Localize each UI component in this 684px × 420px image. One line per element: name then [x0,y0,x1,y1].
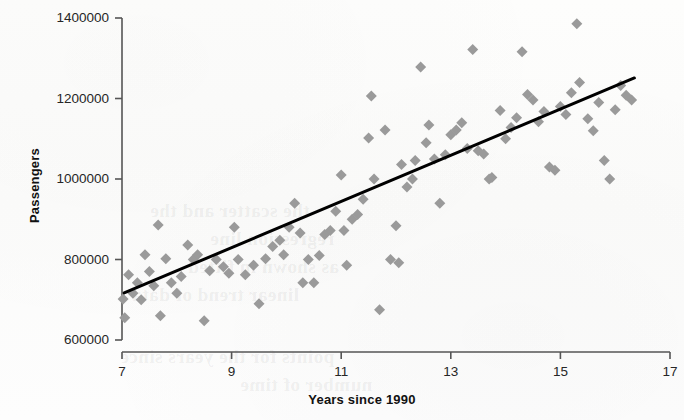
data-point-marker [574,77,585,88]
data-point-marker [330,206,341,217]
data-point-marker [295,227,306,238]
data-point-marker [136,294,147,305]
data-point-marker [260,253,271,264]
data-point-marker [248,260,259,271]
data-point-marker [144,266,155,277]
data-point-marker [204,265,215,276]
data-point-marker [593,97,604,108]
data-point-marker [254,298,265,309]
data-point-marker [336,169,347,180]
data-point-marker [274,235,285,246]
data-point-marker [588,125,599,136]
scatter-chart-figure: 600000800000100000012000001400000 791113… [0,0,684,420]
data-point-marker [410,155,421,166]
trend-line [124,78,634,293]
data-point-marker [314,250,325,261]
data-point-marker [604,174,615,185]
data-point-marker [182,240,193,251]
data-points-group [118,18,638,326]
x-axis-tick-label: 9 [212,365,252,379]
y-axis-tick-label: 1200000 [17,92,109,106]
data-point-marker [240,269,251,280]
data-point-marker [229,222,240,233]
axis-group [122,18,670,352]
data-point-marker [140,249,151,260]
x-axis-tick-label: 7 [102,365,142,379]
data-point-marker [391,220,402,231]
data-point-marker [421,137,432,148]
data-point-marker [289,198,300,209]
data-point-marker [366,91,377,102]
data-point-marker [599,155,610,166]
data-point-marker [338,225,349,236]
data-point-marker [363,132,374,143]
x-axis-tick-label: 17 [650,365,684,379]
data-point-marker [341,260,352,271]
data-point-marker [308,277,319,288]
data-point-marker [396,159,407,170]
data-point-marker [423,120,434,131]
y-axis-title: Passengers [27,126,42,246]
data-point-marker [467,44,478,55]
data-point-marker [199,315,210,326]
x-axis-ticks [122,352,670,359]
data-point-marker [119,312,130,323]
data-point-marker [369,174,380,185]
data-point-marker [495,105,506,116]
data-point-marker [415,62,426,73]
data-point-marker [278,249,289,260]
data-point-marker [374,304,385,315]
data-point-marker [560,109,571,120]
data-point-marker [517,46,528,57]
data-point-marker [176,271,187,282]
data-point-marker [407,174,418,185]
data-point-marker [566,87,577,98]
data-point-marker [297,277,308,288]
data-point-marker [155,310,166,321]
data-point-marker [166,277,177,288]
y-axis-tick-label: 800000 [17,253,109,267]
y-axis-tick-label: 1400000 [17,11,109,25]
x-axis-title: Years since 1990 [262,392,462,407]
data-point-marker [171,288,182,299]
data-point-marker [267,241,278,252]
data-point-marker [233,254,244,265]
x-axis-tick-label: 15 [540,365,580,379]
data-point-marker [571,18,582,29]
data-point-marker [123,269,134,280]
data-point-marker [118,293,129,304]
data-point-marker [582,113,593,124]
x-axis-tick-label: 11 [321,365,361,379]
data-point-marker [401,182,412,193]
data-point-marker [153,219,164,230]
plot-canvas [0,0,684,420]
y-axis-tick-label: 600000 [17,333,109,347]
data-point-marker [303,254,314,265]
x-axis-tick-label: 13 [431,365,471,379]
data-point-marker [380,124,391,135]
data-point-marker [160,253,171,264]
data-point-marker [511,112,522,123]
data-point-marker [610,104,621,115]
y-axis-ticks [115,18,122,340]
data-point-marker [434,198,445,209]
